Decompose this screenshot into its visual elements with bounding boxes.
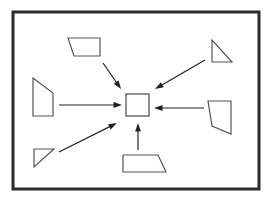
center-square[interactable] [126,94,149,116]
diagram-canvas [0,0,273,207]
figure-root [0,0,273,207]
top-left-trapezoid[interactable] [68,38,100,56]
bottom-trapezoid[interactable] [123,155,166,172]
